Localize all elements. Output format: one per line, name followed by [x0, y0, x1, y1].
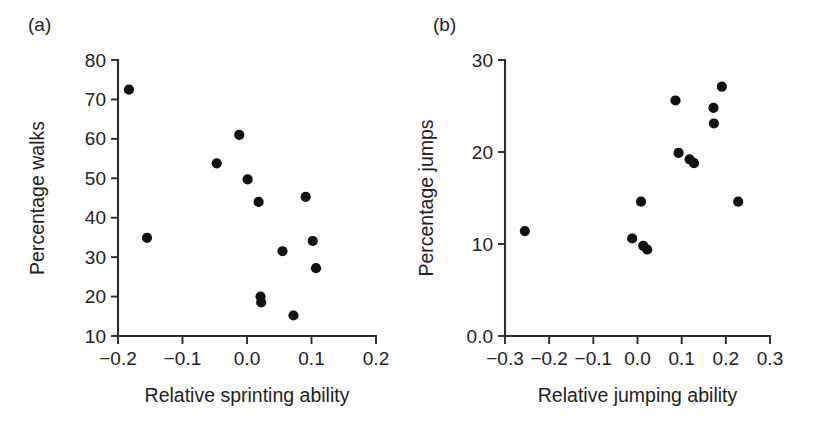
- panel-a-plot: 8070605040302010−0.2−0.10.00.10.2Relativ…: [0, 0, 411, 421]
- x-tick-label: 0.1: [668, 348, 694, 369]
- y-axis-title: Percentage walks: [26, 121, 48, 275]
- data-point: [636, 197, 646, 207]
- y-tick-label: 30: [472, 50, 493, 71]
- y-tick-label: 30: [85, 247, 106, 268]
- data-point: [717, 82, 727, 92]
- data-point: [234, 130, 244, 140]
- data-point: [308, 236, 318, 246]
- panel-b: (b) 3020100.0−0.3−0.2−0.10.00.10.20.3Rel…: [411, 0, 822, 421]
- data-point: [124, 84, 134, 94]
- x-tick-label: 0.2: [713, 348, 739, 369]
- y-tick-label: 80: [85, 50, 106, 71]
- data-point: [243, 174, 253, 184]
- data-point: [212, 158, 222, 168]
- y-tick-label: 20: [85, 286, 106, 307]
- data-point: [277, 246, 287, 256]
- y-tick-label: 10: [472, 234, 493, 255]
- x-tick-label: −0.2: [530, 348, 568, 369]
- x-tick-label: 0.0: [234, 348, 260, 369]
- x-tick-label: 0.3: [757, 348, 783, 369]
- data-point: [642, 244, 652, 254]
- y-axis-title: Percentage jumps: [415, 119, 437, 276]
- x-tick-label: 0.1: [298, 348, 324, 369]
- x-axis-title: Relative jumping ability: [538, 384, 738, 406]
- y-tick-label: 10: [85, 326, 106, 347]
- panel-a: (a) 8070605040302010−0.2−0.10.00.10.2Rel…: [0, 0, 411, 421]
- x-tick-label: −0.2: [99, 348, 137, 369]
- data-point: [311, 263, 321, 273]
- data-point: [254, 197, 264, 207]
- y-tick-label: 40: [85, 207, 106, 228]
- x-tick-label: 0.2: [363, 348, 389, 369]
- x-tick-label: −0.3: [486, 348, 524, 369]
- data-point: [627, 233, 637, 243]
- figure-root: (a) 8070605040302010−0.2−0.10.00.10.2Rel…: [0, 0, 822, 421]
- x-axis-title: Relative sprinting ability: [145, 384, 350, 406]
- y-tick-label: 50: [85, 168, 106, 189]
- data-point: [301, 192, 311, 202]
- x-tick-label: −0.1: [164, 348, 202, 369]
- y-tick-label: 70: [85, 89, 106, 110]
- panel-b-plot: 3020100.0−0.3−0.2−0.10.00.10.20.3Relativ…: [411, 0, 822, 421]
- data-point: [709, 118, 719, 128]
- data-point: [288, 310, 298, 320]
- data-point: [673, 148, 683, 158]
- data-point: [733, 197, 743, 207]
- data-point: [689, 158, 699, 168]
- x-tick-label: 0.0: [624, 348, 650, 369]
- data-point: [142, 233, 152, 243]
- y-tick-label: 20: [472, 142, 493, 163]
- data-point: [256, 297, 266, 307]
- data-point: [708, 103, 718, 113]
- data-point: [520, 226, 530, 236]
- y-tick-label: 0.0: [467, 326, 493, 347]
- x-tick-label: −0.1: [575, 348, 613, 369]
- y-tick-label: 60: [85, 128, 106, 149]
- data-point: [670, 95, 680, 105]
